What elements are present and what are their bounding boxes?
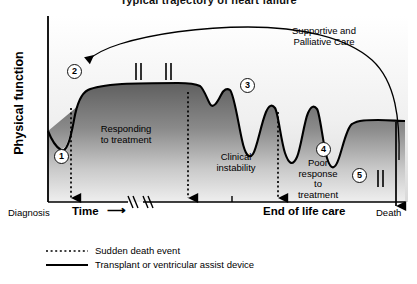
legend-label-sudden-death: Sudden death event bbox=[95, 245, 180, 256]
figure-container: Typical trajectory of heart failure Phys… bbox=[0, 0, 417, 284]
marker-3: 3 bbox=[240, 78, 255, 93]
annotation-responding-to-treatment: Responding to treatment bbox=[84, 124, 168, 145]
annotation-clinical-instability: Clinical instability bbox=[200, 152, 272, 173]
marker-5: 5 bbox=[352, 168, 367, 183]
annotation-poor-response: Poor response to treatment bbox=[288, 158, 348, 200]
x-axis-label-time: Time bbox=[72, 205, 99, 217]
x-axis-label-diagnosis: Diagnosis bbox=[8, 207, 50, 218]
x-axis-label-death: Death bbox=[376, 207, 401, 218]
marker-1: 1 bbox=[54, 149, 69, 164]
annotation-palliative-care: Supportive and Palliative Care bbox=[268, 26, 380, 47]
x-axis-label-end-of-life-care: End of life care bbox=[263, 205, 345, 217]
marker-4: 4 bbox=[316, 142, 331, 157]
time-arrow-icon: ⟶ bbox=[107, 203, 126, 218]
marker-2: 2 bbox=[67, 64, 82, 79]
legend-label-transplant-vad: Transplant or ventricular assist device bbox=[95, 259, 254, 270]
